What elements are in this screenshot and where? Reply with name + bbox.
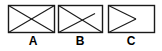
shape-a-group [9, 6, 55, 33]
shape-b-group [59, 6, 103, 33]
figure-label-a: A [23, 34, 43, 49]
figure-label-c: C [121, 34, 141, 49]
figure-container: A B C [0, 0, 162, 51]
figure-labels-row: A B C [0, 34, 162, 51]
shape-c-rectangle [109, 6, 155, 33]
shape-c-group [109, 6, 155, 33]
figure-label-b: B [70, 34, 90, 49]
